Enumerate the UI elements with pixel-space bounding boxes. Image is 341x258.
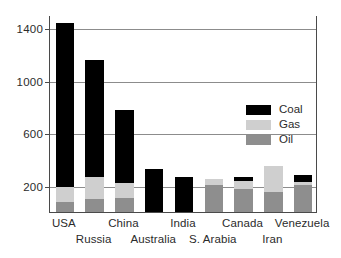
legend-item-oil[interactable]: Oil	[246, 133, 303, 147]
bar-segment-oil[interactable]	[56, 202, 74, 212]
y-tick-mark-600	[45, 134, 50, 135]
bar-group[interactable]	[56, 15, 74, 212]
y-tick-label-200: 200	[23, 181, 43, 193]
legend-label-coal: Coal	[279, 104, 303, 116]
legend-label-gas: Gas	[279, 119, 300, 131]
bar-group[interactable]	[175, 15, 193, 212]
plot-area: 14001000600200 CoalGasOil	[49, 16, 317, 213]
bar-segment-coal[interactable]	[145, 169, 163, 212]
legend-swatch-oil	[246, 135, 271, 145]
bar-segment-coal[interactable]	[56, 23, 74, 187]
bar-segment-gas[interactable]	[294, 182, 312, 185]
x-axis-label-canada: Canada	[222, 217, 263, 229]
y-tick-label-600: 600	[23, 128, 43, 140]
y-tick-label-1000: 1000	[17, 76, 43, 88]
bar-segment-coal[interactable]	[175, 177, 193, 212]
bar-group[interactable]	[115, 15, 133, 212]
x-axis-label-iran: Iran	[262, 233, 282, 245]
bar-segment-coal[interactable]	[85, 60, 103, 177]
bar-segment-oil[interactable]	[205, 185, 223, 212]
legend-item-gas[interactable]: Gas	[246, 118, 303, 132]
x-axis-label-india: India	[170, 217, 195, 229]
chart-legend: CoalGasOil	[246, 103, 303, 148]
bar-segment-oil[interactable]	[234, 189, 252, 212]
legend-label-oil: Oil	[279, 134, 293, 146]
y-tick-mark-1400	[45, 29, 50, 30]
y-tick-label-1400: 1400	[17, 23, 43, 35]
bar-segment-coal[interactable]	[294, 175, 312, 182]
legend-item-coal[interactable]: Coal	[246, 103, 303, 117]
bar-segment-gas[interactable]	[85, 177, 103, 199]
legend-swatch-coal	[246, 105, 271, 115]
x-axis-label-usa: USA	[52, 217, 76, 229]
bar-segment-oil[interactable]	[294, 185, 312, 212]
bar-group[interactable]	[85, 15, 103, 212]
x-axis-label-china: China	[108, 217, 139, 229]
bar-segment-gas[interactable]	[264, 166, 282, 192]
bar-segment-gas[interactable]	[115, 183, 133, 198]
x-axis-label-s-arabia: S. Arabia	[189, 233, 237, 245]
legend-swatch-gas	[246, 120, 271, 130]
bar-group[interactable]	[205, 15, 223, 212]
bar-segment-coal[interactable]	[115, 110, 133, 184]
bar-segment-oil[interactable]	[115, 198, 133, 212]
x-axis-label-russia: Russia	[76, 233, 112, 245]
bar-segment-gas[interactable]	[205, 179, 223, 185]
bar-segment-oil[interactable]	[264, 192, 282, 212]
y-tick-mark-1000	[45, 82, 50, 83]
bar-segment-oil[interactable]	[85, 199, 103, 212]
x-axis-label-venezuela: Venezuela	[275, 217, 330, 229]
bar-segment-coal[interactable]	[234, 177, 252, 181]
x-axis-label-australia: Australia	[130, 233, 176, 245]
bar-group[interactable]	[145, 15, 163, 212]
y-tick-mark-200	[45, 187, 50, 188]
x-axis-labels: USARussiaChinaAustraliaIndiaS. ArabiaCan…	[49, 213, 317, 258]
chart-figure: 14001000600200 CoalGasOil USARussiaChina…	[0, 0, 341, 258]
bar-segment-gas[interactable]	[56, 187, 74, 202]
bar-segment-gas[interactable]	[234, 181, 252, 189]
